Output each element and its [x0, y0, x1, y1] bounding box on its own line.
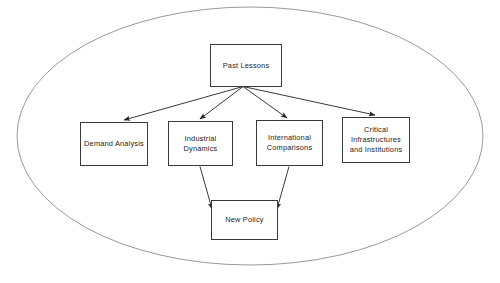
- edge-past-to-demand: [124, 87, 243, 121]
- diagram-vector-layer: [0, 0, 500, 283]
- edge-past-to-industrial: [200, 87, 243, 120]
- node-demand-analysis-label: Demand Analysis: [82, 139, 146, 149]
- node-industrial-dynamics-label: Industrial Dynamics: [182, 134, 220, 154]
- node-past-lessons-label: Past Lessons: [221, 61, 272, 71]
- node-international-comparisons[interactable]: International Comparisons: [256, 120, 323, 166]
- node-international-comparisons-label: International Comparisons: [265, 133, 315, 153]
- node-new-policy-label: New Policy: [223, 215, 265, 225]
- node-demand-analysis[interactable]: Demand Analysis: [80, 122, 148, 166]
- node-critical-infrastructures-label: Critical Infrastructures and Institution…: [348, 125, 405, 155]
- node-critical-infrastructures[interactable]: Critical Infrastructures and Institution…: [342, 117, 410, 163]
- node-industrial-dynamics[interactable]: Industrial Dynamics: [168, 121, 233, 166]
- edge-international-to-policy: [277, 167, 289, 210]
- diagram-canvas: Past Lessons Demand Analysis Industrial …: [0, 0, 500, 283]
- node-past-lessons[interactable]: Past Lessons: [210, 44, 282, 87]
- node-new-policy[interactable]: New Policy: [211, 200, 278, 240]
